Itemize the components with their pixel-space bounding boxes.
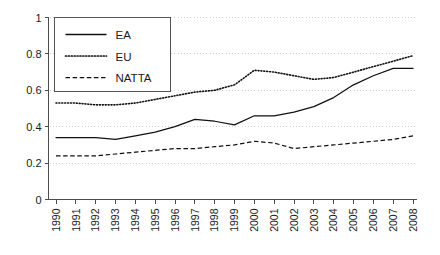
chart-canvas: 00.20.40.60.81 1990199119921993199419951…: [0, 0, 440, 255]
y-axis-tick-label: 0.2: [26, 157, 41, 169]
legend-label-ea: EA: [116, 29, 132, 41]
legend-label-eu: EU: [116, 51, 132, 63]
x-axis-tick-label: 1999: [228, 208, 240, 232]
legend: EAEUNATTA: [55, 18, 171, 92]
legend-label-natta: NATTA: [116, 72, 152, 84]
x-axis-tick-label: 2004: [327, 208, 339, 232]
x-axis-tick-label: 2005: [347, 208, 359, 232]
x-axis-tick-label: 1992: [89, 208, 101, 232]
y-axis-tick-label: 0.4: [26, 121, 41, 133]
x-axis-tick-label: 2008: [407, 208, 419, 232]
y-axis-labels-group: 00.20.40.60.81: [26, 12, 41, 206]
y-axis-tick-label: 0.8: [26, 48, 41, 60]
line-chart: 00.20.40.60.81 1990199119921993199419951…: [0, 0, 440, 255]
y-axis-tick-label: 0.6: [26, 84, 41, 96]
x-axis-tick-label: 1991: [70, 208, 82, 232]
y-axis-tick-label: 1: [35, 12, 41, 24]
x-axis-tick-label: 2000: [248, 208, 260, 232]
x-axis-tick-label: 2001: [268, 208, 280, 232]
x-axis-tick-label: 1993: [109, 208, 121, 232]
x-axis-tick-label: 2006: [367, 208, 379, 232]
x-axis-tick-label: 1995: [149, 208, 161, 232]
x-axis-tick-label: 2007: [387, 208, 399, 232]
x-axis-labels-group: 1990199119921993199419951996199719981999…: [50, 208, 419, 232]
x-axis-tick-label: 1994: [129, 208, 141, 232]
x-axis-ticks-group: [56, 200, 413, 204]
legend-box: [55, 18, 171, 92]
y-axis-ticks-group: [45, 18, 49, 200]
x-axis-tick-label: 1990: [50, 208, 62, 232]
x-axis-tick-label: 1996: [169, 208, 181, 232]
x-axis-tick-label: 2003: [308, 208, 320, 232]
y-axis-tick-label: 0: [35, 194, 41, 206]
x-axis-tick-label: 1998: [208, 208, 220, 232]
x-axis-tick-label: 2002: [288, 208, 300, 232]
x-axis-tick-label: 1997: [189, 208, 201, 232]
